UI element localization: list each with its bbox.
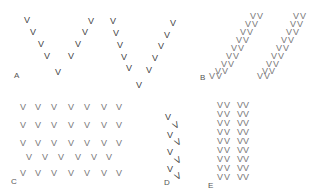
bird-c: V bbox=[68, 139, 74, 148]
bird-d: V bbox=[175, 172, 181, 181]
bird-c: V bbox=[68, 121, 74, 130]
panel-label-e: E bbox=[208, 182, 213, 190]
bird-a: V bbox=[75, 40, 81, 49]
panel-label-b: B bbox=[200, 74, 205, 82]
bird-d: V bbox=[167, 148, 173, 157]
bird-c: V bbox=[20, 169, 26, 178]
bird-c: V bbox=[20, 103, 26, 112]
bird-c: V bbox=[58, 153, 64, 162]
panel-label-a: A bbox=[14, 72, 19, 80]
bird-a: V bbox=[117, 41, 123, 50]
bird-c: V bbox=[91, 153, 97, 162]
bird-c: V bbox=[26, 153, 32, 162]
bird-c: V bbox=[101, 121, 107, 130]
bird-b: V bbox=[216, 72, 222, 81]
panel-label-c: C bbox=[11, 178, 17, 186]
bird-c: V bbox=[84, 169, 90, 178]
bird-e: V bbox=[217, 173, 223, 182]
bird-b: V bbox=[209, 72, 215, 81]
bird-c: V bbox=[51, 103, 57, 112]
bird-c: V bbox=[101, 169, 107, 178]
bird-c: V bbox=[84, 121, 90, 130]
bird-a: V bbox=[30, 28, 36, 37]
bird-c: V bbox=[35, 139, 41, 148]
bird-a: V bbox=[24, 16, 30, 25]
bird-a: V bbox=[88, 17, 94, 26]
bird-a: V bbox=[113, 29, 119, 38]
bird-c: V bbox=[116, 169, 122, 178]
bird-d: V bbox=[165, 113, 171, 122]
bird-c: V bbox=[20, 121, 26, 130]
panel-label-d: D bbox=[164, 179, 170, 187]
bird-c: V bbox=[35, 103, 41, 112]
bird-c: V bbox=[51, 139, 57, 148]
bird-c: V bbox=[20, 139, 26, 148]
bird-b: V bbox=[257, 72, 263, 81]
bird-c: V bbox=[51, 121, 57, 130]
bird-c: V bbox=[35, 121, 41, 130]
bird-d: V bbox=[175, 138, 181, 147]
bird-d: V bbox=[173, 121, 179, 130]
bird-c: V bbox=[116, 121, 122, 130]
bird-c: V bbox=[101, 139, 107, 148]
bird-a: V bbox=[152, 54, 158, 63]
bird-a: V bbox=[110, 17, 116, 26]
bird-a: V bbox=[158, 42, 164, 51]
bird-a: V bbox=[126, 64, 132, 73]
bird-c: V bbox=[116, 139, 122, 148]
bird-a: V bbox=[121, 53, 127, 62]
bird-a: V bbox=[136, 81, 142, 90]
bird-c: V bbox=[68, 169, 74, 178]
bird-e: V bbox=[243, 173, 249, 182]
bird-c: V bbox=[84, 139, 90, 148]
bird-a: V bbox=[44, 52, 50, 61]
bird-b: V bbox=[228, 60, 234, 69]
bird-a: V bbox=[164, 31, 170, 40]
bird-c: V bbox=[84, 103, 90, 112]
bird-b: V bbox=[222, 67, 228, 76]
bird-d: V bbox=[175, 156, 181, 165]
bird-c: V bbox=[101, 103, 107, 112]
bird-c: V bbox=[75, 153, 81, 162]
bird-e: V bbox=[224, 173, 230, 182]
bird-a: V bbox=[38, 40, 44, 49]
bird-c: V bbox=[68, 103, 74, 112]
bird-a: V bbox=[55, 68, 61, 77]
bird-a: V bbox=[146, 66, 152, 75]
bird-c: V bbox=[106, 153, 112, 162]
bird-a: V bbox=[68, 52, 74, 61]
bird-b: V bbox=[264, 72, 270, 81]
bird-c: V bbox=[35, 169, 41, 178]
bird-a: V bbox=[82, 28, 88, 37]
bird-c: V bbox=[51, 169, 57, 178]
bird-c: V bbox=[116, 103, 122, 112]
bird-a: V bbox=[170, 19, 176, 28]
bird-c: V bbox=[42, 153, 48, 162]
